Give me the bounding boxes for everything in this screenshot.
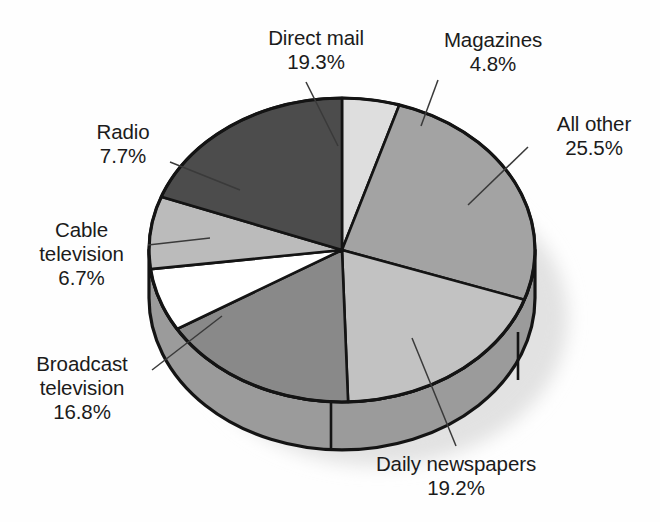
slice-label-direct-mail-value: 19.3% (236, 50, 396, 74)
slice-label-broadcast-television-name2: television (12, 376, 152, 400)
slice-label-magazines: Magazines 4.8% (418, 28, 568, 76)
slice-label-cable-television-name2: television (14, 242, 149, 266)
slice-label-cable-television-value: 6.7% (14, 266, 149, 290)
slice-label-all-other-value: 25.5% (534, 136, 654, 160)
slice-label-cable-television: Cable television 6.7% (14, 218, 149, 291)
slice-label-all-other: All other 25.5% (534, 112, 654, 160)
slice-label-radio-name: Radio (68, 120, 178, 144)
slice-label-radio: Radio 7.7% (68, 120, 178, 168)
slice-label-magazines-name: Magazines (418, 28, 568, 52)
slice-label-magazines-value: 4.8% (418, 52, 568, 76)
slice-label-cable-television-name: Cable (14, 218, 149, 242)
slice-label-all-other-name: All other (534, 112, 654, 136)
pie-top-face (149, 98, 535, 402)
slice-label-daily-newspapers-name: Daily newspapers (356, 452, 556, 476)
slice-label-radio-value: 7.7% (68, 144, 178, 168)
slice-label-broadcast-television-name: Broadcast (12, 352, 152, 376)
slice-label-broadcast-television: Broadcast television 16.8% (12, 352, 152, 425)
slice-label-daily-newspapers-value: 19.2% (356, 476, 556, 500)
slice-label-broadcast-television-value: 16.8% (12, 400, 152, 424)
pie-chart-figure: Direct mail 19.3% Magazines 4.8% All oth… (0, 0, 660, 522)
slice-label-daily-newspapers: Daily newspapers 19.2% (356, 452, 556, 500)
slice-label-direct-mail-name: Direct mail (236, 26, 396, 50)
slice-label-direct-mail: Direct mail 19.3% (236, 26, 396, 74)
